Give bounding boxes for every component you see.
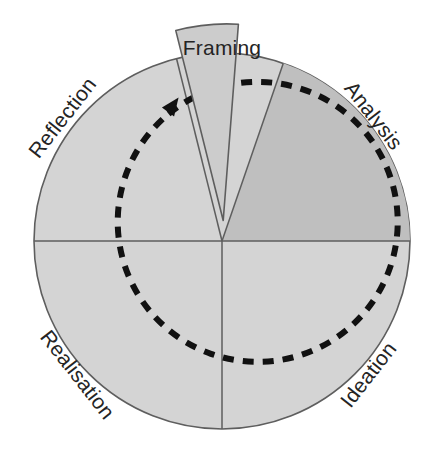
cycle-wheel-svg: Framing Analysis Ideation Realisation Re… bbox=[0, 0, 432, 457]
sector-ideation[interactable] bbox=[222, 241, 410, 429]
sector-label-framing: Framing bbox=[183, 36, 261, 59]
design-cycle-diagram: Framing Analysis Ideation Realisation Re… bbox=[0, 0, 432, 457]
